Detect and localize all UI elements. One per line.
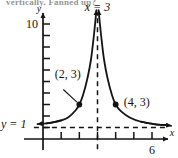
point-label-2-3: (2, 3) bbox=[55, 67, 81, 81]
figure-container: vertically. Fanned up? bbox=[0, 0, 178, 158]
point-2-3-leader-line bbox=[63, 90, 77, 103]
cut-off-header-text: vertically. Fanned up? bbox=[6, 0, 178, 7]
right-branch-tail bbox=[141, 122, 171, 126]
y-tick-label-10: 10 bbox=[26, 17, 38, 31]
x-axis-ticks bbox=[61, 132, 152, 139]
y-axis-ticks bbox=[43, 24, 50, 128]
point-marker-2-3 bbox=[76, 102, 82, 108]
point-marker-4-3 bbox=[113, 102, 119, 108]
function-graph: 10 6 y x x = 3 y = 1 (2, 3) (4, 3) bbox=[0, 0, 178, 158]
point-label-4-3: (4, 3) bbox=[124, 95, 150, 109]
left-branch-tail bbox=[38, 120, 62, 124]
x-tick-label-6: 6 bbox=[149, 143, 155, 157]
x-axis-label: x bbox=[169, 127, 175, 138]
horizontal-asymptote-label: y = 1 bbox=[0, 117, 26, 131]
